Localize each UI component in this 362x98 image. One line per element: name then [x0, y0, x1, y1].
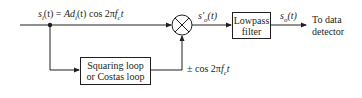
carrier-recovery-line2: or Costas loop — [81, 71, 150, 82]
carrier-arrow — [151, 36, 182, 70]
multiplier-icon — [172, 15, 192, 35]
destination-label: To data detector — [312, 14, 344, 38]
carrier-recovery-block: Squaring loop or Costas loop — [80, 57, 151, 85]
lowpass-line1: Lowpass — [233, 15, 270, 26]
mixer-output-label: s′o(t) — [198, 10, 217, 26]
carrier-label: ± cos 2πfct — [187, 63, 230, 79]
branch-arrow — [50, 25, 79, 70]
filter-output-label: so(t) — [280, 10, 297, 26]
input-signal-label: si(t) = Adi(t) cos 2πfct — [38, 8, 124, 24]
lowpass-line2: filter — [233, 26, 270, 37]
carrier-recovery-line1: Squaring loop — [81, 60, 150, 71]
lowpass-filter-block: Lowpass filter — [232, 12, 271, 39]
